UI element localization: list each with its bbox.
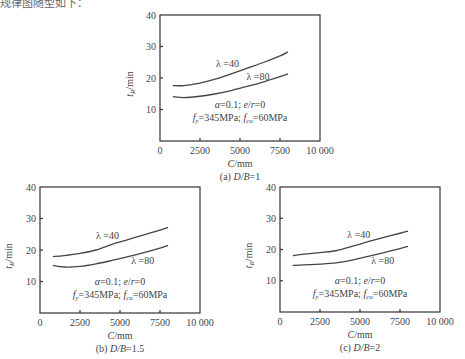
x-tick-label: 0 [278,316,283,327]
y-tick-label: 40 [266,182,276,193]
annotation-strengths: fy=345MPa; fcu=60MPa [193,112,288,125]
annotation-params: α=0.1; e/r=0 [215,99,265,110]
x-tick-label: 0 [158,145,163,156]
x-tick-label: 5000 [110,317,130,328]
x-axis-label: C/mm [227,158,252,169]
chart-panel-a: 10203040025005000750010 000C/mm(a) D/B=1… [124,10,334,184]
x-tick-label: 7500 [390,316,410,327]
x-tick-label: 10 000 [426,316,454,327]
y-tick-label: 20 [266,244,276,255]
y-tick-label: 40 [146,10,156,21]
series-label-lambda-80: λ =80 [246,71,269,82]
annotation-params: α=0.1; e/r=0 [335,275,385,286]
x-tick-label: 5000 [230,145,250,156]
y-axis-label: tR/min [243,243,256,268]
x-tick-label: 2500 [310,316,330,327]
x-axis-label: C/mm [107,330,132,341]
chart-panel-c: 10203040025005000750010 000C/mm(c) D/B=2… [243,182,454,355]
annotation-strengths: fy=345MPa; fcu=60MPa [73,289,168,302]
x-tick-label: 0 [38,317,43,328]
y-axis-label: tR/min [3,243,16,268]
series-label-lambda-40: λ =40 [96,230,119,241]
x-tick-label: 2500 [190,145,210,156]
x-tick-label: 7500 [270,145,290,156]
y-tick-label: 10 [26,276,36,287]
x-tick-label: 2500 [70,317,90,328]
y-tick-label: 20 [146,73,156,84]
chart-panel-b: 10203040025005000750010 000C/mm(b) D/B=1… [3,182,214,356]
y-axis-label: tR/min [124,71,137,96]
x-tick-label: 10 000 [186,317,214,328]
chart-figure: 10203040025005000750010 000C/mm(a) D/B=1… [0,0,465,359]
panel-caption: (c) D/B=2 [340,342,380,354]
x-tick-label: 7500 [150,317,170,328]
series-label-lambda-80: λ =80 [371,255,394,266]
series-label-lambda-80: λ =80 [131,255,154,266]
y-tick-label: 30 [26,213,36,224]
y-tick-label: 30 [266,213,276,224]
curve-lambda-80 [173,74,288,98]
y-tick-label: 30 [146,41,156,52]
annotation-params: α=0.1; e/r=0 [95,276,145,287]
annotation-strengths: fy=345MPa; fcu=60MPa [313,288,408,301]
series-label-lambda-40: λ =40 [216,58,239,69]
y-tick-label: 20 [26,245,36,256]
x-tick-label: 5000 [350,316,370,327]
y-tick-label: 10 [266,275,276,286]
series-label-lambda-40: λ =40 [347,229,370,240]
x-tick-label: 10 000 [306,145,334,156]
panel-caption: (a) D/B=1 [220,171,260,183]
x-axis-label: C/mm [347,329,372,340]
panel-caption: (b) D/B=1.5 [96,343,144,355]
y-tick-label: 40 [26,182,36,193]
y-tick-label: 10 [146,104,156,115]
